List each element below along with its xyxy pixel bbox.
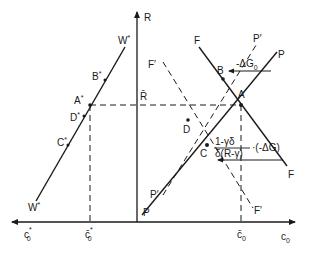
f-bottom-label: F: [288, 169, 294, 180]
point-D-dot: [186, 118, 190, 122]
c-bar-0-star-label: c̄*0: [85, 226, 93, 242]
point-B-star-dot: [104, 79, 107, 82]
point-C-label: C: [200, 148, 207, 159]
p-prime-bottom-label: P′: [150, 189, 159, 200]
point-A-star-label: A*: [74, 94, 84, 106]
f-prime-top-label: F′: [148, 59, 156, 70]
w-star-bottom-label: W*: [28, 201, 40, 213]
point-C-dot: [205, 143, 209, 147]
point-D-label: D: [183, 124, 190, 135]
multiplier-fraction: 1-γδ δ(R-γ) ·(-ΔG): [214, 136, 280, 159]
point-C-star-label: C*: [57, 136, 67, 148]
f-top-label: F: [194, 35, 200, 46]
point-A-star-dot: [88, 103, 92, 107]
point-D-star-label: D*: [70, 111, 80, 123]
axis-label-R: R: [144, 12, 151, 23]
point-A-dot: [239, 103, 243, 107]
f-prime-dashed-line: [163, 62, 253, 208]
p-bottom-label: P: [143, 207, 150, 218]
point-B-star-label: B*: [92, 70, 102, 82]
fraction-denominator: δ(R-γ): [215, 148, 243, 159]
delta-g0-label: -ΔG0: [236, 58, 258, 71]
f-prime-bottom-label: F′: [254, 205, 262, 216]
point-B-dot: [221, 77, 225, 81]
axis-label-c0-star: c*0: [24, 226, 32, 242]
point-D-star-dot: [83, 115, 86, 118]
fraction-multiplier: ·(-ΔG): [252, 142, 280, 153]
w-star-line: [36, 47, 125, 201]
r-bar-label: R̄: [140, 90, 147, 102]
point-A-label: A: [238, 89, 245, 100]
w-star-top-label: W*: [118, 34, 130, 46]
fraction-numerator: 1-γδ: [215, 136, 235, 147]
axis-label-c0: c0: [281, 231, 290, 244]
p-prime-top-label: P′: [253, 33, 262, 44]
point-C-star-dot: [67, 144, 70, 147]
p-top-label: P: [278, 49, 285, 60]
p-line: [142, 52, 277, 215]
economic-diagram: R R̄ c0 c*0 c̄0 c̄*0 W* W* B* A* D* C* F…: [0, 0, 310, 255]
point-B-label: B: [217, 65, 224, 76]
c-bar-0-label: c̄0: [237, 229, 246, 242]
